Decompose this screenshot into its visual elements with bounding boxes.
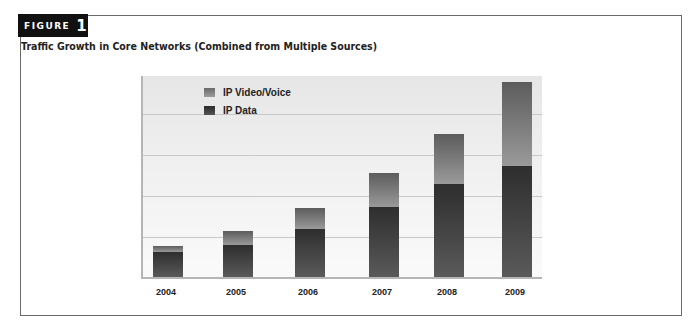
bar-segment-ip-video-voice <box>295 208 325 229</box>
bar-segment-ip-video-voice <box>369 173 399 207</box>
bar-segment-ip-data <box>295 229 325 277</box>
x-tick-label: 2005 <box>216 287 256 297</box>
figure-label-text: FIGURE <box>24 21 70 31</box>
legend-swatch-data <box>204 106 215 115</box>
gridline <box>143 237 542 238</box>
legend-label-video: IP Video/Voice <box>223 87 291 98</box>
x-tick-label: 2008 <box>427 287 467 297</box>
bar-segment-ip-data <box>502 166 532 277</box>
legend-label-data: IP Data <box>223 105 257 116</box>
plot-area: IP Video/Voice IP Data <box>141 76 542 279</box>
x-tick-label: 2009 <box>495 287 535 297</box>
figure-label: FIGURE 1 <box>18 14 88 37</box>
bar-2007 <box>369 173 399 277</box>
x-tick-label: 2004 <box>146 287 186 297</box>
bar-segment-ip-video-voice <box>434 134 464 184</box>
legend-item-video: IP Video/Voice <box>204 83 291 101</box>
x-tick-label: 2006 <box>288 287 328 297</box>
bar-2005 <box>223 231 253 277</box>
bar-segment-ip-data <box>434 184 464 277</box>
bar-segment-ip-data <box>369 207 399 277</box>
gridline <box>143 114 542 115</box>
figure-number: 1 <box>76 17 86 35</box>
legend-swatch-video <box>204 88 215 97</box>
bar-segment-ip-video-voice <box>502 82 532 166</box>
x-tick-label: 2007 <box>362 287 402 297</box>
gridline <box>143 196 542 197</box>
bar-2008 <box>434 134 464 277</box>
legend-item-data: IP Data <box>204 101 291 119</box>
bar-2009 <box>502 82 532 277</box>
chart-title: Traffic Growth in Core Networks (Combine… <box>21 40 377 53</box>
bar-segment-ip-data <box>153 252 183 277</box>
bar-segment-ip-video-voice <box>223 231 253 245</box>
bar-2004 <box>153 246 183 277</box>
bar-2006 <box>295 208 325 277</box>
gridline <box>143 155 542 156</box>
legend: IP Video/Voice IP Data <box>204 83 291 119</box>
bar-segment-ip-data <box>223 245 253 277</box>
